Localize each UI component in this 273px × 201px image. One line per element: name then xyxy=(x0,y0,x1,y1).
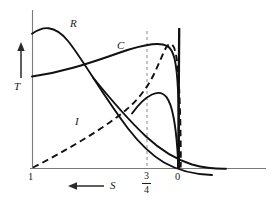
figure-container: T S R C I 1 3 4 0 xyxy=(0,0,273,201)
figure-plot xyxy=(0,0,273,201)
t-axis-arrow xyxy=(17,42,24,78)
fraction-numerator: 3 xyxy=(143,171,150,182)
curve-c xyxy=(32,44,179,168)
tick-label-three-quarters: 3 4 xyxy=(142,171,151,195)
s-axis-arrow xyxy=(68,182,104,189)
curve-label-c: C xyxy=(117,40,124,51)
y-axis-label-t: T xyxy=(14,81,20,92)
x-axis-label-s: S xyxy=(110,180,116,191)
tick-label-zero: 0 xyxy=(175,172,180,183)
tick-label-one: 1 xyxy=(28,172,33,183)
curve-label-i: I xyxy=(75,116,79,127)
fraction-denominator: 4 xyxy=(143,185,150,196)
curve-r-tail xyxy=(93,78,226,169)
curve-i xyxy=(33,44,181,168)
curve-label-r: R xyxy=(70,18,77,29)
